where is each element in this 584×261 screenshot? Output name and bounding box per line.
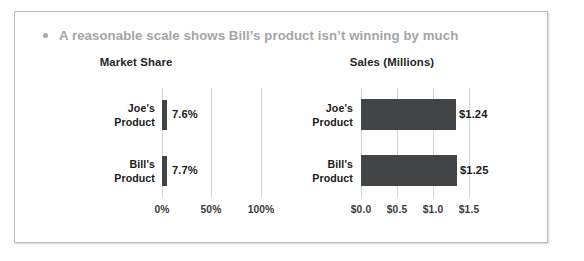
headline-text: A reasonable scale shows Bill’s product … [59,28,458,43]
bar-value-bills-product: 7.7% [172,164,198,176]
gridline-1-5 [469,88,470,198]
chart-market-share: Market Share Joe's Product 7.6% Bill's P… [33,56,283,231]
bar-joes-product [361,99,456,130]
category-label-bills-product: Bill's Product [267,158,353,185]
category-label-joes-product: Joe's Product [267,102,353,129]
tick-label-1-0: $1.0 [423,204,443,215]
gridline-50pct [211,88,212,198]
category-label-line1: Joe's [67,102,155,116]
bar-bills-product [162,156,167,186]
category-label-line1: Joe's [267,102,353,116]
category-label-line2: Product [67,116,155,130]
category-label-line2: Product [267,172,353,186]
bar-value-joes-product: 7.6% [172,108,198,120]
tick-label-0-0: $0.0 [351,204,371,215]
bar-value-joes-product: $1.24 [459,108,488,120]
category-label-line1: Bill's [267,158,353,172]
plot-area-sales: Joe's Product $1.24 Bill's Product $1.25 [283,88,533,198]
tick-label-1-5: $1.5 [459,204,479,215]
gridline-100pct [261,88,262,198]
tick-label-0pct: 0% [154,204,169,215]
bullet-point-icon [43,33,48,38]
bar-joes-product [162,100,167,130]
headline-bullet-row: A reasonable scale shows Bill’s product … [43,28,458,43]
chart-sales-millions: Sales (Millions) Joe's Product $1.24 Bil… [283,56,533,231]
category-label-joes-product: Joe's Product [67,102,155,129]
slide-frame: A reasonable scale shows Bill’s product … [14,11,548,243]
tick-label-0-5: $0.5 [387,204,407,215]
chart-title-market-share: Market Share [11,56,261,68]
tick-label-50pct: 50% [201,204,222,215]
tick-label-100pct: 100% [248,204,275,215]
chart-title-sales: Sales (Millions) [267,56,517,68]
bar-value-bills-product: $1.25 [460,164,489,176]
category-label-bills-product: Bill's Product [67,158,155,185]
category-label-line2: Product [67,172,155,186]
category-label-line1: Bill's [67,158,155,172]
category-label-line2: Product [267,116,353,130]
bar-bills-product [361,155,457,186]
plot-area-market-share: Joe's Product 7.6% Bill's Product 7.7% [33,88,283,198]
